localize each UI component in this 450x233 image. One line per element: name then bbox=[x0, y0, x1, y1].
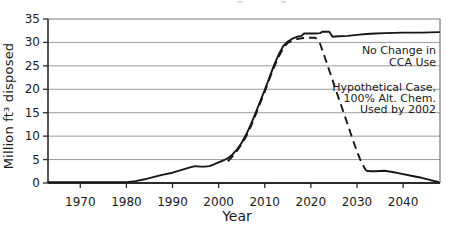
chart-figure: 0510152025303519701980199020002010202020… bbox=[0, 0, 450, 233]
y-tick-label-20: 20 bbox=[25, 82, 40, 96]
y-tick-label-15: 15 bbox=[25, 106, 40, 120]
series-1-solid-tail-line bbox=[366, 171, 439, 182]
x-axis-title: Year bbox=[221, 208, 252, 224]
legend-hypothetical-line-3: Used by 2002 bbox=[360, 103, 436, 116]
y-tick-label-25: 25 bbox=[25, 59, 40, 73]
legend-hypothetical-label: Hypothetical Case, 100% Alt. Chem. Used … bbox=[332, 81, 436, 116]
y-tick-label-0: 0 bbox=[32, 176, 40, 190]
line-chart: 0510152025303519701980199020002010202020… bbox=[0, 0, 450, 233]
x-tick-label-2010: 2010 bbox=[249, 195, 280, 209]
x-tick-label-2000: 2000 bbox=[203, 195, 234, 209]
cropped-title-remnant bbox=[281, 1, 286, 3]
x-tick-label-2020: 2020 bbox=[296, 195, 327, 209]
x-tick-label-1970: 1970 bbox=[65, 195, 96, 209]
x-tick-label-2030: 2030 bbox=[342, 195, 373, 209]
y-tick-label-35: 35 bbox=[25, 12, 40, 26]
y-tick-label-5: 5 bbox=[32, 153, 40, 167]
x-tick-label-1990: 1990 bbox=[157, 195, 188, 209]
x-tick-label-2040: 2040 bbox=[388, 195, 419, 209]
legend-no-change-label: No Change in CCA Use bbox=[362, 44, 436, 69]
y-tick-label-10: 10 bbox=[25, 129, 40, 143]
y-tick-label-30: 30 bbox=[25, 35, 40, 49]
y-axis-title: Million ft³ disposed bbox=[1, 43, 16, 170]
legend-no-change-line-2: CCA Use bbox=[389, 56, 436, 69]
x-tick-label-1980: 1980 bbox=[111, 195, 142, 209]
cropped-title-remnant bbox=[237, 1, 243, 3]
